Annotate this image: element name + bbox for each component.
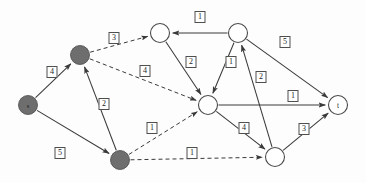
edge-capacity-label-center-n6: 4	[239, 122, 250, 134]
node-t[interactable]: t	[329, 96, 348, 115]
edge-capacity-label-n3-t: 5	[280, 36, 291, 48]
edge-capacity-label-n1-center: 4	[140, 65, 151, 77]
edge-capacity-label-n5-center: 1	[147, 122, 158, 134]
node-center[interactable]	[199, 96, 218, 115]
node-n3[interactable]	[229, 24, 248, 43]
edge-capacity-label-center-t: 1	[288, 90, 299, 102]
node-circle-n1[interactable]	[71, 46, 90, 65]
edge-s-to-n5	[37, 110, 109, 153]
node-circle-n5[interactable]	[111, 151, 130, 170]
edge-capacity-label-s-n1: 4	[47, 66, 58, 78]
node-n6[interactable]	[266, 148, 285, 167]
node-circle-n6[interactable]	[266, 148, 285, 167]
network-diagram: st 452341112125143	[0, 0, 366, 183]
node-n2[interactable]	[151, 24, 170, 43]
edge-capacity-label-n2-center: 2	[186, 56, 197, 68]
edge-capacity-label-n3-center: 1	[226, 56, 237, 68]
edge-capacity-label-n6-t: 3	[299, 123, 310, 135]
edge-capacity-label-n5-n1: 2	[99, 98, 110, 110]
node-circle-center[interactable]	[199, 96, 218, 115]
edge-capacity-label-n3-n2: 1	[195, 11, 206, 23]
edge-capacity-label-n6-n3: 2	[256, 71, 267, 83]
node-circle-n2[interactable]	[151, 24, 170, 43]
node-s[interactable]: s	[19, 96, 38, 115]
edge-capacity-label-s-n5: 5	[55, 147, 66, 159]
edge-capacity-label-n1-n2: 3	[109, 32, 120, 44]
node-n5[interactable]	[111, 151, 130, 170]
node-circle-n3[interactable]	[229, 24, 248, 43]
edge-capacity-label-n5-n6: 1	[187, 147, 198, 159]
node-n1[interactable]	[71, 46, 90, 65]
edge-n2-to-center	[166, 42, 201, 95]
